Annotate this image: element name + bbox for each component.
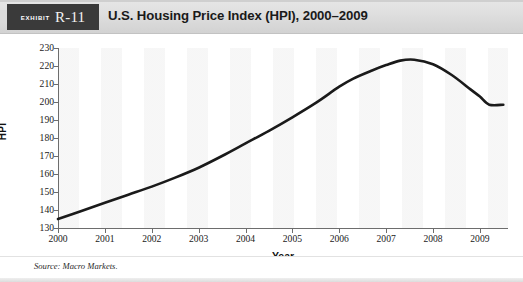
x-axis-tick-label: 2003 [177, 234, 221, 244]
source-note: Source: Macro Markets. [34, 261, 118, 271]
y-axis-tick-label: 200 [28, 97, 54, 107]
x-axis-tick-label: 2006 [317, 234, 361, 244]
y-axis-tick-label: 180 [28, 133, 54, 143]
x-axis-line [58, 228, 508, 229]
y-axis-tick-label: 190 [28, 115, 54, 125]
x-axis-tick-label: 2000 [36, 234, 80, 244]
y-axis-tick [54, 192, 58, 193]
y-axis-tick-label: 210 [28, 79, 54, 89]
y-axis-tick-label: 150 [28, 187, 54, 197]
y-axis-tick-label: 140 [28, 205, 54, 215]
header-top-rule [0, 0, 523, 2]
y-axis-tick-label: 170 [28, 151, 54, 161]
y-axis-tick-labels: 230220210200190180170160150140130 [26, 48, 54, 228]
exhibit-badge-number: R-11 [55, 9, 85, 26]
y-axis-tick [54, 120, 58, 121]
page-title: U.S. Housing Price Index (HPI), 2000–200… [108, 8, 368, 23]
series-hpi-line [58, 48, 508, 228]
y-axis-tick-label: 230 [28, 43, 54, 53]
x-axis-tick-label: 2002 [130, 234, 174, 244]
y-axis-tick [54, 66, 58, 67]
bottom-rule [0, 278, 523, 282]
exhibit-badge-word: Exhibit [21, 12, 50, 22]
y-axis-tick-label: 160 [28, 169, 54, 179]
exhibit-figure: Exhibit R-11 U.S. Housing Price Index (H… [0, 0, 523, 282]
exhibit-badge: Exhibit R-11 [7, 4, 99, 30]
y-axis-tick [54, 210, 58, 211]
y-axis-tick [54, 102, 58, 103]
x-axis-tick-label: 2008 [411, 234, 455, 244]
y-axis-tick-label: 220 [28, 61, 54, 71]
y-axis-tick [54, 156, 58, 157]
y-axis-tick [54, 84, 58, 85]
y-axis-tick [54, 138, 58, 139]
y-axis-tick-label: 130 [28, 223, 54, 233]
x-axis-tick-label: 2005 [270, 234, 314, 244]
chart-area: HPI 230220210200190180170160150140130 20… [0, 34, 523, 256]
x-axis-tick-label: 2009 [458, 234, 502, 244]
y-axis-title: HPI [0, 123, 8, 141]
series-hpi-path [58, 59, 503, 219]
exhibit-header: Exhibit R-11 U.S. Housing Price Index (H… [0, 0, 523, 34]
x-axis-tick-label: 2007 [364, 234, 408, 244]
plot-frame: 2000200120022003200420052006200720082009 [58, 48, 508, 228]
y-axis-tick [54, 48, 58, 49]
x-axis-tick-label: 2004 [224, 234, 268, 244]
y-axis-tick [54, 174, 58, 175]
x-axis-tick-label: 2001 [83, 234, 127, 244]
